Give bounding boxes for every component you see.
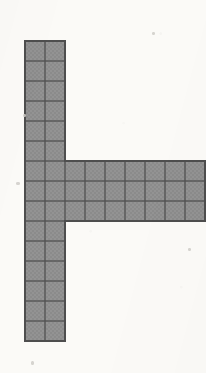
speck-top-right [152, 32, 155, 35]
grid-cell [45, 201, 65, 221]
grid-cell [165, 181, 185, 201]
grid-cell [25, 301, 45, 321]
grid-cell [185, 201, 205, 221]
grid-cell [25, 121, 45, 141]
grid-cell [45, 301, 65, 321]
speck-left-margin [16, 182, 20, 185]
grid-cell [45, 141, 65, 161]
grid-cell [45, 281, 65, 301]
grid-cell [85, 161, 105, 181]
shaded-cells-group [25, 41, 205, 341]
polyomino-svg [0, 0, 206, 373]
grid-cell [45, 261, 65, 281]
grid-cell [45, 221, 65, 241]
grid-cell [25, 101, 45, 121]
grid-cell [105, 181, 125, 201]
grid-cell [105, 201, 125, 221]
grid-cell [185, 161, 205, 181]
grid-cell [125, 201, 145, 221]
grid-cell [45, 321, 65, 341]
grid-cell [25, 321, 45, 341]
grid-cell [25, 41, 45, 61]
grid-cell [85, 201, 105, 221]
grid-cell [105, 161, 125, 181]
grid-cell [25, 161, 45, 181]
grid-cell [185, 181, 205, 201]
grid-cell [145, 181, 165, 201]
speck-bottom-left [31, 361, 34, 365]
grid-cell [45, 121, 65, 141]
grid-cell [25, 281, 45, 301]
grid-cell [45, 101, 65, 121]
speck-mid-right [188, 248, 191, 251]
grid-figure [0, 0, 206, 373]
grid-cell [25, 61, 45, 81]
grid-cell [25, 261, 45, 281]
grid-cell [45, 81, 65, 101]
grid-cell [145, 201, 165, 221]
grid-cell [45, 61, 65, 81]
grid-cell [45, 181, 65, 201]
grid-cell [25, 201, 45, 221]
grid-cell [125, 161, 145, 181]
grid-cell [145, 161, 165, 181]
grid-cell [125, 181, 145, 201]
grid-cell [25, 241, 45, 261]
speck-upper-left [23, 114, 26, 117]
grid-cell [45, 41, 65, 61]
grid-cell [85, 181, 105, 201]
figure-page [0, 0, 206, 373]
grid-cell [25, 221, 45, 241]
grid-cell [25, 81, 45, 101]
grid-cell [25, 181, 45, 201]
grid-cell [165, 201, 185, 221]
grid-cell [65, 201, 85, 221]
grid-cell [165, 161, 185, 181]
grid-cell [65, 161, 85, 181]
grid-cell [45, 161, 65, 181]
grid-cell [45, 241, 65, 261]
grid-cell [25, 141, 45, 161]
grid-cell [65, 181, 85, 201]
